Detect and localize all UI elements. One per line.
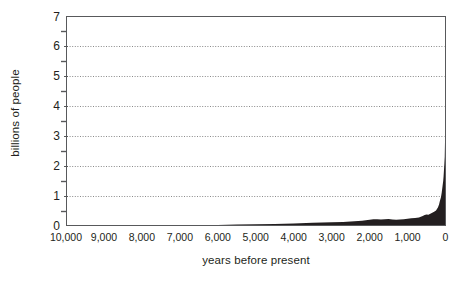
x-tick-label: 10,000 [50,231,82,243]
x-tick-label: 8,000 [129,231,155,243]
x-axis-tick-labels: 10,0009,0008,0007,0006,0005,0004,0003,00… [0,231,473,247]
x-tick-label: 7,000 [167,231,193,243]
population-area-series [66,76,446,225]
y-minor-ticks [61,32,66,212]
x-tick-label: 5,000 [243,231,269,243]
x-tick-label: 6,000 [205,231,231,243]
x-tick-label: 0 [443,231,449,243]
x-tick-label: 1,000 [394,231,420,243]
population-chart-figure: billions of people 01234567 10,0009,0008… [0,0,473,281]
x-tick-label: 4,000 [281,231,307,243]
x-axis-title: years before present [66,254,446,266]
plot-frame-border [67,17,446,226]
x-axis-title-text: years before present [202,254,309,266]
x-tick-label: 3,000 [319,231,345,243]
x-tick-label: 2,000 [356,231,382,243]
grid-lines [67,47,445,197]
x-tick-label: 9,000 [91,231,117,243]
